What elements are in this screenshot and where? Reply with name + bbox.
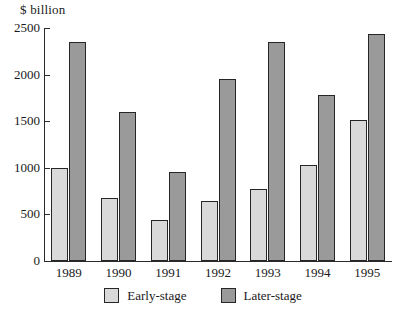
x-axis-tick-label-1994: 1994 bbox=[293, 266, 343, 280]
legend-item-early-stage[interactable]: Early-stage bbox=[104, 288, 186, 303]
x-axis-tick-label-1993: 1993 bbox=[243, 266, 293, 280]
bar-later-stage-1991 bbox=[169, 172, 186, 261]
y-axis-tick-label: 2500 bbox=[0, 21, 40, 34]
legend-swatch-icon bbox=[221, 288, 236, 303]
y-axis-tick-label: 0 bbox=[0, 254, 40, 267]
y-axis-tick-label: 2000 bbox=[0, 68, 40, 81]
bar-later-stage-1990 bbox=[119, 112, 136, 261]
bar-group-1993 bbox=[250, 28, 285, 261]
bar-group-1989 bbox=[51, 28, 86, 261]
y-axis-tick-label: 500 bbox=[0, 207, 40, 220]
y-axis-tick-mark bbox=[44, 214, 50, 215]
x-axis-tick-label-1991: 1991 bbox=[143, 266, 193, 280]
x-axis-tick-label-1989: 1989 bbox=[44, 266, 94, 280]
legend: Early-stageLater-stage bbox=[0, 288, 406, 303]
bar-early-stage-1991 bbox=[151, 220, 168, 261]
legend-item-later-stage[interactable]: Later-stage bbox=[221, 288, 302, 303]
legend-swatch-icon bbox=[104, 288, 119, 303]
bar-group-1992 bbox=[201, 28, 236, 261]
y-axis-tick-label-group: 25002000150010005000 bbox=[0, 0, 40, 318]
plot-area bbox=[44, 28, 392, 261]
y-axis-tick-mark bbox=[44, 28, 50, 29]
y-axis-tick-label: 1500 bbox=[0, 114, 40, 127]
x-axis-tick-label-1992: 1992 bbox=[193, 266, 243, 280]
bar-early-stage-1992 bbox=[201, 201, 218, 261]
bar-early-stage-1990 bbox=[101, 198, 118, 261]
bar-group-1995 bbox=[350, 28, 385, 261]
x-axis-tick-label-1995: 1995 bbox=[342, 266, 392, 280]
bar-early-stage-1994 bbox=[300, 165, 317, 261]
y-axis-tick-label: 1000 bbox=[0, 161, 40, 174]
bar-early-stage-1989 bbox=[51, 168, 68, 261]
legend-item-label: Later-stage bbox=[244, 289, 302, 303]
x-axis-tick-label-1990: 1990 bbox=[94, 266, 144, 280]
y-axis-tick-mark bbox=[44, 261, 50, 262]
y-axis-tick-mark bbox=[44, 75, 50, 76]
y-axis-tick-mark bbox=[44, 121, 50, 122]
bar-group-1991 bbox=[151, 28, 186, 261]
bar-early-stage-1995 bbox=[350, 120, 367, 261]
bar-group-1990 bbox=[101, 28, 136, 261]
bar-early-stage-1993 bbox=[250, 189, 267, 261]
bar-later-stage-1995 bbox=[368, 34, 385, 261]
bar-later-stage-1993 bbox=[268, 42, 285, 261]
legend-item-label: Early-stage bbox=[127, 289, 186, 303]
y-axis-tick-mark bbox=[44, 168, 50, 169]
bar-chart-figure: $ billion 25002000150010005000 198919901… bbox=[0, 0, 406, 318]
bar-later-stage-1989 bbox=[69, 42, 86, 261]
x-axis-line bbox=[44, 261, 392, 262]
bar-group-1994 bbox=[300, 28, 335, 261]
bar-later-stage-1992 bbox=[219, 79, 236, 261]
bar-later-stage-1994 bbox=[318, 95, 335, 261]
